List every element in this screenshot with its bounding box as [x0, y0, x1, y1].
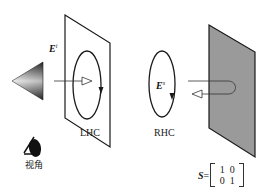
scattering-matrix: S = 1 0 0 1	[198, 163, 244, 187]
matrix-cell: 0	[227, 165, 237, 175]
scattered-field-label: Es	[156, 80, 165, 91]
matrix-cell: 1	[217, 165, 227, 175]
eye-viewpoint-icon	[24, 137, 42, 158]
matrix-equals: =	[204, 170, 210, 181]
antenna-cone-icon	[12, 62, 43, 100]
lhc-polarization-ellipse	[73, 51, 104, 119]
lhc-label: LHC	[80, 127, 100, 138]
viewpoint-label: 视角	[25, 158, 43, 171]
matrix-cell: 1	[227, 176, 237, 186]
incident-field-label: Ei	[49, 43, 57, 54]
matrix-cell: 0	[217, 176, 227, 186]
matrix-grid: 1 0 0 1	[215, 165, 239, 186]
right-bracket	[239, 163, 244, 187]
reflector-plate	[209, 25, 255, 157]
rhc-label: RHC	[154, 127, 175, 138]
